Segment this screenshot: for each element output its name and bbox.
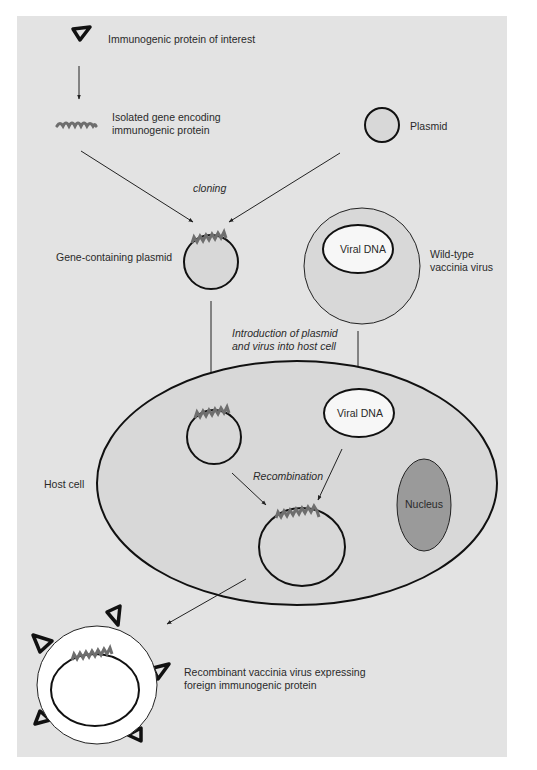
label-gene: Isolated gene encoding immunogenic prote…	[112, 111, 221, 136]
recombinant-virus-icon	[33, 606, 169, 744]
label-introduction-line2: and virus into host cell	[232, 340, 338, 353]
protein-triangle-icon	[73, 27, 90, 40]
label-gene-line1: Isolated gene encoding	[112, 111, 221, 124]
label-wild-type-line2: vaccinia virus	[430, 261, 493, 274]
label-protein: Immunogenic protein of interest	[108, 33, 255, 46]
label-recombinant-line2: foreign immunogenic protein	[184, 679, 366, 692]
label-wild-type: Wild-type vaccinia virus	[430, 248, 493, 273]
label-gene-line2: immunogenic protein	[112, 124, 221, 137]
label-introduction-line1: Introduction of plasmid	[232, 327, 338, 340]
recombined-dna-icon	[259, 506, 345, 586]
arrow-gene-to-cloning	[81, 151, 193, 222]
plasmid-icon	[365, 108, 399, 142]
gene-containing-plasmid-icon	[184, 232, 238, 289]
label-viral-dna-cell: Viral DNA	[337, 407, 383, 420]
wild-type-virus-icon	[304, 208, 420, 324]
label-recombination: Recombination	[253, 470, 323, 483]
label-introduction: Introduction of plasmid and virus into h…	[232, 327, 338, 352]
label-wild-type-line1: Wild-type	[430, 248, 493, 261]
label-nucleus: Nucleus	[405, 498, 443, 511]
gene-squiggle-icon	[57, 123, 96, 126]
label-recombinant-virus: Recombinant vaccinia virus expressing fo…	[184, 666, 366, 691]
arrow-plasmid-to-cloning	[229, 153, 340, 222]
label-cloning: cloning	[193, 182, 226, 195]
label-viral-dna-virus: Viral DNA	[340, 243, 386, 256]
label-host-cell: Host cell	[44, 478, 84, 491]
label-recombinant-line1: Recombinant vaccinia virus expressing	[184, 666, 366, 679]
diagram-canvas	[0, 0, 537, 770]
label-gene-containing-plasmid: Gene-containing plasmid	[56, 251, 172, 264]
label-plasmid: Plasmid	[410, 120, 447, 133]
